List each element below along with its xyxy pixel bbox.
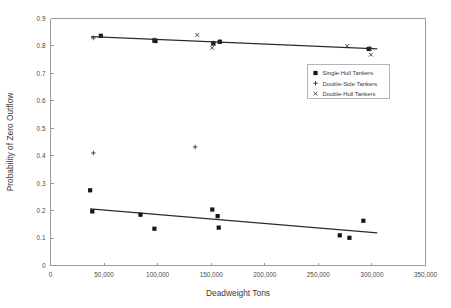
lower-trend (90, 209, 377, 233)
x-tick-label: 0 (49, 271, 53, 278)
y-tick-label: 0.7 (37, 70, 46, 77)
y-tick-label: 0.9 (37, 15, 46, 22)
legend-item-label: Double-Side Tankers (323, 81, 378, 87)
x-tick-label: 250,000 (307, 271, 331, 278)
series-double-hull-tankers (99, 33, 373, 57)
data-point (361, 219, 365, 223)
x-tick-label: 350,000 (414, 271, 438, 278)
y-tick-label: 0.8 (37, 42, 46, 49)
data-point (217, 226, 221, 230)
legend-item-label: Single-Hull Tankers (323, 70, 374, 76)
x-tick-label: 50,000 (94, 271, 114, 278)
upper-trend (91, 37, 377, 49)
data-point (88, 188, 92, 192)
x-axis-title: Deadweight Tons (206, 288, 270, 298)
chart-page: 00.10.20.30.40.50.60.70.80.9050,000100,0… (0, 0, 451, 308)
data-point (216, 214, 220, 218)
y-tick-label: 0.4 (37, 152, 46, 159)
y-tick-label: 0.6 (37, 97, 46, 104)
data-point (347, 236, 351, 240)
y-axis-title: Probability of Zero Outflow (5, 92, 15, 192)
y-tick-label: 0.1 (37, 234, 46, 241)
data-point (152, 227, 156, 231)
x-tick-label: 100,000 (146, 271, 170, 278)
y-tick-label: 0.2 (37, 207, 46, 214)
y-tick-label: 0.5 (37, 125, 46, 132)
data-point (90, 209, 94, 213)
data-point (193, 145, 198, 150)
plot-frame (51, 19, 426, 266)
x-tick-label: 200,000 (253, 271, 277, 278)
y-tick-label: 0.3 (37, 180, 46, 187)
data-point (369, 53, 373, 57)
data-point (91, 151, 96, 156)
data-point (195, 33, 199, 37)
x-tick-label: 150,000 (200, 271, 224, 278)
scatter-plot: 00.10.20.30.40.50.60.70.80.9050,000100,0… (0, 0, 451, 308)
data-point (210, 207, 214, 211)
x-tick-label: 300,000 (360, 271, 384, 278)
data-point (210, 46, 214, 50)
data-point (338, 233, 342, 237)
legend: Single-Hull TankersDouble-Side TankersDo… (308, 65, 390, 99)
legend-item-label: Double-Hull Tankers (323, 91, 376, 97)
data-point (138, 213, 142, 217)
legend-marker-square-icon (313, 71, 317, 75)
y-tick-label: 0 (42, 262, 46, 269)
